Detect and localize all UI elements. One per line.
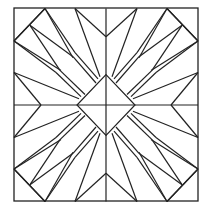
star-line [151, 140, 198, 169]
star-line [114, 131, 137, 157]
star-line [75, 131, 98, 157]
star-line [14, 41, 56, 73]
star-line [137, 9, 167, 53]
star-line [14, 138, 56, 170]
star-line [60, 116, 85, 140]
quilt-diagram [0, 0, 211, 211]
star-line [14, 41, 61, 70]
star-line [127, 116, 152, 140]
star-line [73, 127, 96, 153]
star-line [116, 57, 139, 83]
star-line [137, 157, 167, 201]
star-line [156, 138, 198, 170]
star-line [167, 9, 198, 42]
star-line [45, 9, 75, 53]
star-line [139, 152, 167, 201]
star-line [151, 41, 198, 70]
star-line [156, 41, 198, 73]
star-line [75, 53, 98, 79]
star-line [114, 53, 137, 79]
star-line [45, 157, 75, 201]
star-line [45, 9, 73, 58]
star-line [167, 169, 198, 202]
star-line [14, 9, 45, 42]
star-line [73, 57, 96, 83]
star-line [14, 140, 61, 169]
star-line [139, 9, 167, 58]
star-lines [14, 9, 198, 202]
star-line [56, 113, 81, 137]
star-line [60, 70, 85, 94]
star-line [56, 73, 81, 97]
star-line [116, 127, 139, 153]
star-line [14, 169, 45, 202]
star-line [127, 70, 152, 94]
star-line [45, 152, 73, 201]
star-line [131, 113, 156, 137]
star-line [131, 73, 156, 97]
